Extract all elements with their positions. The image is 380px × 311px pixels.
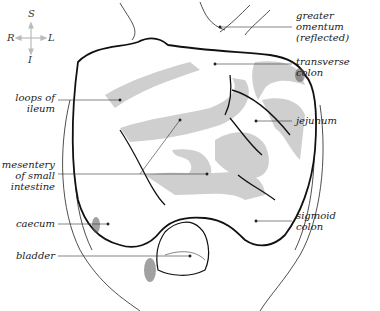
compass-superior: S: [28, 8, 35, 19]
orientation-compass-icon: [16, 23, 46, 54]
label-caecum: caecum: [0, 218, 55, 229]
label-bladder: bladder: [0, 250, 55, 261]
label-loops-of-ileum: loops of ileum: [0, 92, 55, 114]
compass-inferior: I: [28, 54, 32, 65]
compass-left: L: [48, 32, 55, 43]
label-mesentery: mesentery of small intestine: [0, 159, 55, 192]
label-transverse-colon: transverse colon: [296, 56, 350, 78]
bladder-shape: [157, 222, 209, 275]
label-jejunum: jejunum: [296, 115, 337, 126]
compass-right: R: [7, 32, 15, 43]
label-greater-omentum: greater omentum (reflected): [296, 10, 349, 43]
abdomen-diagram: S I R L loops of ileum mesentery of smal…: [0, 0, 380, 311]
anatomy-illustration: [0, 0, 380, 311]
label-sigmoid-colon: sigmoid colon: [296, 210, 336, 232]
